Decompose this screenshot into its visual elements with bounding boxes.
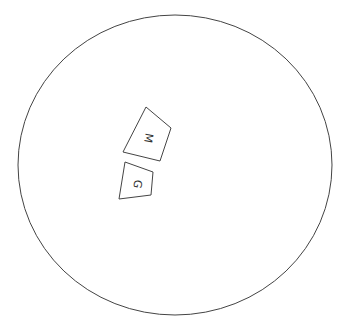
- diagram-canvas: M G: [0, 0, 348, 325]
- block-m-label: M: [141, 132, 155, 144]
- block-g-label: G: [130, 179, 144, 190]
- boundary-circle: [18, 15, 332, 315]
- block-m: M: [123, 107, 171, 161]
- block-g: G: [119, 162, 153, 199]
